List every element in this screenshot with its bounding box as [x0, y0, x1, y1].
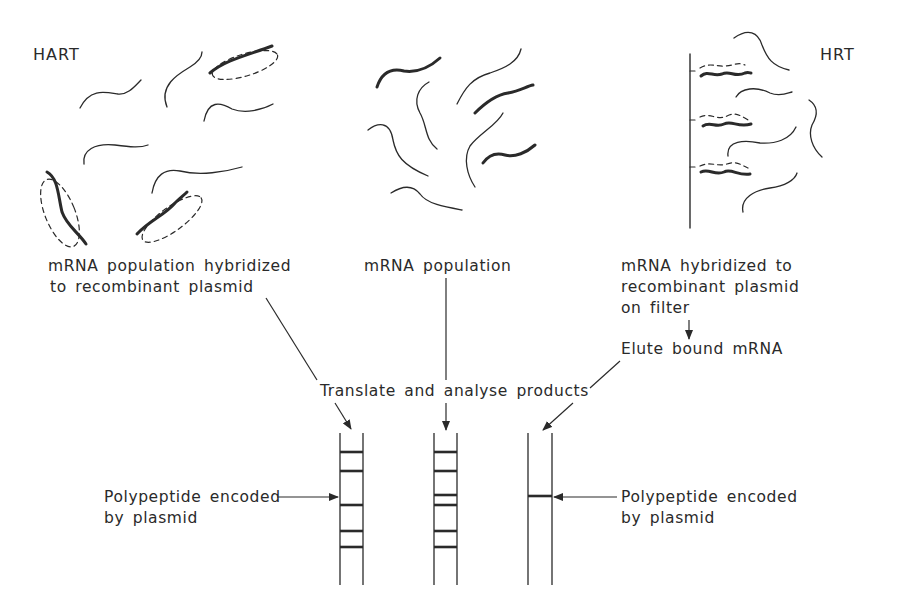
mrna-strand — [368, 125, 428, 176]
mrna-strand-thick — [483, 145, 535, 163]
mrna-strand — [204, 104, 273, 121]
arrow-to-hart-lane — [335, 403, 351, 429]
bound-mrna-strand — [47, 172, 86, 244]
mrna-strand — [736, 89, 792, 97]
plasmid-ellipse — [136, 188, 208, 250]
hrt-filter-assembly — [690, 32, 822, 228]
hart-title: HART — [33, 44, 80, 65]
mrna-strand — [457, 49, 521, 104]
plasmid-ellipse — [33, 174, 88, 252]
elute-to-translate-line — [590, 361, 620, 388]
mrna-strand — [734, 32, 789, 70]
mrna-strand — [809, 100, 822, 157]
gel-lane-hart — [340, 433, 363, 585]
mrna-strand-thick — [475, 85, 533, 113]
mrna-strand — [152, 167, 242, 193]
bound-mrna-strand — [701, 73, 751, 76]
mrna-strand — [84, 145, 148, 164]
population-caption: mRNA population — [364, 256, 511, 277]
gel-lane-hrt — [528, 433, 552, 585]
right-annotation-line-1: Polypeptide encoded — [621, 487, 798, 508]
mrna-strand — [466, 113, 503, 187]
mrna-strand-thick — [377, 58, 440, 87]
left-annotation-line-2: by plasmid — [104, 508, 198, 529]
bound-mrna-strand — [703, 123, 751, 126]
translate-step: Translate and analyse products — [320, 381, 589, 402]
hrt-title: HRT — [820, 44, 855, 65]
plasmid-dna — [700, 64, 745, 68]
hrt-caption-line-2: recombinant plasmid — [621, 277, 799, 298]
hart-caption-line-1: mRNA population hybridized — [48, 256, 291, 277]
mrna-strand — [391, 187, 462, 210]
hrt-caption-line-3: on filter — [621, 298, 690, 319]
hart-caption-line-2: to recombinant plasmid — [50, 277, 254, 298]
hrt-caption-line-1: mRNA hybridized to — [621, 256, 792, 277]
hart-mrna-strands — [33, 45, 281, 252]
bound-mrna-strand — [701, 171, 750, 174]
right-annotation-line-2: by plasmid — [621, 508, 715, 529]
plasmid-dna — [700, 114, 748, 120]
elute-step: Elute bound mRNA — [621, 339, 783, 360]
population-mrna-strands — [368, 49, 535, 210]
gel-lane-population — [434, 433, 457, 585]
left-annotation-line-1: Polypeptide encoded — [104, 487, 281, 508]
mrna-strand — [743, 173, 797, 212]
plasmid-dna — [700, 163, 748, 168]
bound-mrna-strand — [210, 46, 272, 73]
mrna-strand — [165, 52, 202, 107]
hart-to-translate-line — [266, 298, 317, 380]
mrna-strand — [417, 82, 437, 149]
mrna-strand — [80, 80, 141, 108]
arrow-to-hrt-lane — [543, 403, 573, 430]
mrna-strand — [728, 127, 796, 156]
